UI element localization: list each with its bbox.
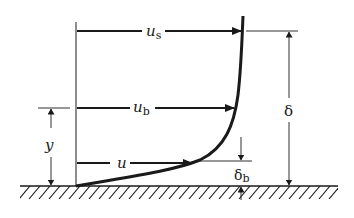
ground-hatching	[19, 186, 340, 199]
boundary-layer-diagram: us ub u y δ δb	[0, 0, 354, 218]
ground-surface	[19, 186, 340, 199]
label-delta-b: δb	[234, 167, 249, 185]
label-u-s: us	[146, 22, 162, 42]
label-u-b: ub	[133, 98, 150, 118]
arrow-u-b: ub	[77, 98, 234, 118]
arrow-u-s: us	[77, 22, 241, 42]
label-y: y	[44, 136, 54, 154]
label-delta: δ	[284, 102, 293, 120]
dimension-y: y	[38, 108, 70, 185]
label-u: u	[117, 154, 127, 172]
dimension-delta: δ	[246, 31, 298, 185]
